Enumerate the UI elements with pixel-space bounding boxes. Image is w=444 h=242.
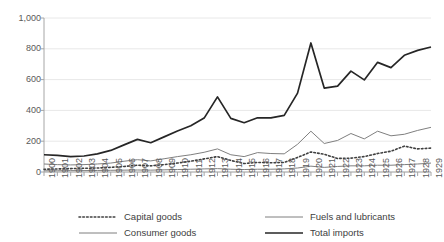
series-line-total-imports — [44, 43, 431, 157]
x-tick-label-1906: 1906 — [128, 148, 137, 178]
x-tick-label-1924: 1924 — [368, 148, 377, 178]
x-tick-label-1927: 1927 — [408, 148, 417, 178]
legend-swatch-icon — [264, 212, 304, 222]
legend-item-total-imports[interactable]: Total imports — [264, 226, 364, 239]
x-tick-label-1926: 1926 — [395, 148, 404, 178]
x-tick-label-1913: 1913 — [221, 148, 230, 178]
legend-label: Consumer goods — [124, 227, 196, 238]
legend-item-fuels-and-lubricants[interactable]: Fuels and lubricants — [264, 210, 395, 223]
legend-label: Capital goods — [124, 211, 182, 222]
chart-legend: Capital goodsFuels and lubricantsConsume… — [0, 207, 438, 242]
y-tick-label: 1,000 — [1, 14, 41, 23]
x-tick-label-1914: 1914 — [235, 148, 244, 178]
x-tick-label-1901: 1901 — [61, 148, 70, 178]
x-tick-label-1916: 1916 — [262, 148, 271, 178]
legend-swatch-icon — [264, 228, 304, 238]
x-tick-label-1908: 1908 — [155, 148, 164, 178]
x-tick-label-1909: 1909 — [168, 148, 177, 178]
x-tick-label-1907: 1907 — [141, 148, 150, 178]
x-tick-label-1902: 1902 — [75, 148, 84, 178]
y-tick-label: 200 — [1, 137, 41, 146]
x-tick-label-1925: 1925 — [382, 148, 391, 178]
legend-item-capital-goods[interactable]: Capital goods — [78, 210, 182, 223]
x-tick-label-1904: 1904 — [101, 148, 110, 178]
x-tick-label-1929: 1929 — [435, 148, 444, 178]
x-tick-label-1903: 1903 — [88, 148, 97, 178]
x-axis-tick-labels: 1900190119021903190419051906190719081909… — [0, 176, 438, 208]
x-tick-label-1928: 1928 — [422, 148, 431, 178]
legend-label: Fuels and lubricants — [310, 211, 395, 222]
x-tick-label-1922: 1922 — [342, 148, 351, 178]
x-tick-label-1905: 1905 — [115, 148, 124, 178]
legend-swatch-icon — [78, 212, 118, 222]
x-tick-label-1900: 1900 — [48, 148, 57, 178]
y-tick-label: 600 — [1, 75, 41, 84]
x-tick-label-1920: 1920 — [315, 148, 324, 178]
x-tick-label-1915: 1915 — [248, 148, 257, 178]
legend-item-consumer-goods[interactable]: Consumer goods — [78, 226, 196, 239]
y-tick-label: 800 — [1, 44, 41, 53]
x-tick-label-1910: 1910 — [181, 148, 190, 178]
y-tick-label: 400 — [1, 106, 41, 115]
x-tick-label-1912: 1912 — [208, 148, 217, 178]
x-tick-label-1918: 1918 — [288, 148, 297, 178]
x-tick-label-1911: 1911 — [195, 148, 204, 178]
x-tick-label-1921: 1921 — [328, 148, 337, 178]
x-tick-label-1919: 1919 — [302, 148, 311, 178]
legend-label: Total imports — [310, 227, 364, 238]
legend-swatch-icon — [78, 228, 118, 238]
y-axis-tick-labels: 02004006008001,000 — [0, 0, 41, 205]
x-tick-label-1923: 1923 — [355, 148, 364, 178]
x-tick-label-1917: 1917 — [275, 148, 284, 178]
plot-area: 02004006008001,000 190019011902190319041… — [0, 0, 438, 205]
